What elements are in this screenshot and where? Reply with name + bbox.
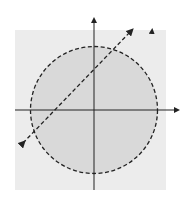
inequality-graph (0, 0, 191, 203)
